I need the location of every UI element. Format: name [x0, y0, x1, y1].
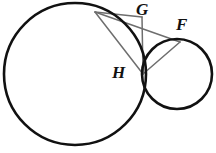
vertex-label-h: H [112, 64, 125, 81]
vertex-label-g: G [136, 1, 148, 18]
vertex-label-f: F [176, 16, 187, 33]
small-circle [142, 39, 212, 109]
segment-H-to-F [143, 42, 180, 74]
geometry-figure: G F H [0, 0, 216, 153]
